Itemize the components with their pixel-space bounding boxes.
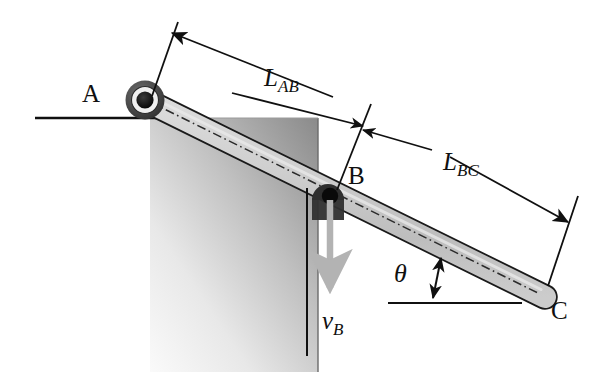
- velocity-b-subscript: B: [333, 320, 344, 339]
- label-angle-theta: θ: [394, 259, 407, 289]
- figure-canvas: A B C LAB LBC vB θ: [0, 0, 612, 372]
- length-bc-subscript: BC: [457, 161, 479, 180]
- label-velocity-b: vB: [322, 307, 344, 340]
- label-point-a: A: [82, 80, 100, 108]
- theta-angle-arrow: [433, 258, 441, 298]
- length-ab-subscript: AB: [278, 77, 299, 96]
- label-length-bc: LBC: [443, 148, 479, 181]
- diagram-svg: [0, 0, 612, 372]
- dimension-line-ab: [172, 33, 333, 97]
- length-bc-base: L: [443, 148, 457, 175]
- dimension-line-bc: [363, 130, 432, 150]
- length-ab-base: L: [264, 64, 278, 91]
- label-point-c: C: [551, 297, 568, 325]
- label-point-b: B: [348, 162, 365, 190]
- pivot-a: [126, 81, 165, 120]
- velocity-b-base: v: [322, 307, 333, 334]
- label-length-ab: LAB: [264, 64, 299, 97]
